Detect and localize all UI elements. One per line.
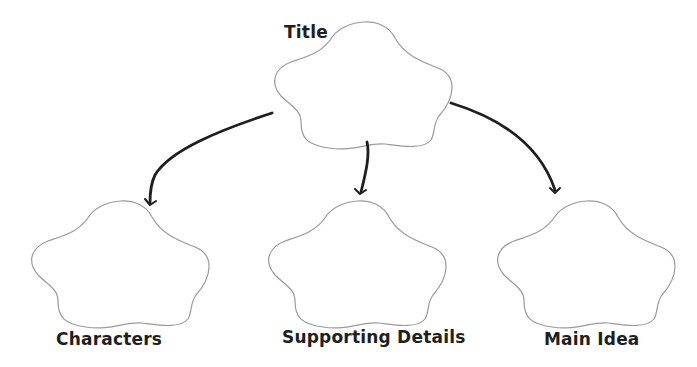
diagram-canvas [0,0,697,367]
supporting-details-label: Supporting Details [282,327,466,347]
characters-cloud[interactable] [32,201,209,328]
arrow-to-main-idea [451,103,560,193]
supporting-details-cloud[interactable] [269,201,446,328]
characters-label: Characters [56,329,162,349]
main-idea-cloud[interactable] [498,201,675,328]
arrow-to-characters [145,113,272,205]
title-label: Title [284,22,328,42]
arrow-to-supporting-details [355,142,368,194]
main-idea-label: Main Idea [544,329,640,349]
